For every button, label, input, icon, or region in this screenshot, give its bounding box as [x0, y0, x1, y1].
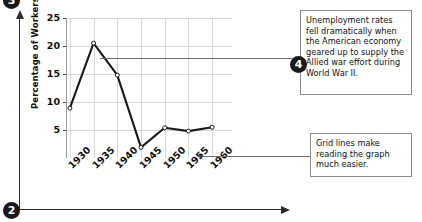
data-point-marker [139, 145, 143, 149]
line-chart [66, 18, 232, 158]
frame-horizontal-axis [19, 209, 281, 210]
frame-vertical-axis [19, 18, 20, 210]
leader-dot-callout-two [199, 155, 202, 158]
callout-gridlines: Grid lines make reading the graph much e… [310, 133, 412, 177]
callout-unemployment: Unemployment rates fell dramatically whe… [300, 10, 412, 95]
data-point-marker [210, 125, 214, 129]
leader-line-callout-two [200, 156, 310, 157]
y-tick-label: 5 [34, 124, 60, 135]
series-line [66, 18, 232, 158]
frame-horizontal-arrowhead-icon [281, 206, 290, 214]
data-point-marker [163, 126, 167, 130]
y-tick-label: 20 [34, 40, 60, 51]
step-badge-3: 3 [3, 0, 20, 9]
y-tick-label: 10 [34, 96, 60, 107]
data-point-marker [68, 106, 72, 110]
frame-vertical-arrowhead-icon [16, 10, 24, 19]
data-point-marker [115, 73, 119, 77]
data-point-marker [92, 41, 96, 45]
leader-line-callout-one [100, 58, 292, 59]
step-badge-2: 2 [3, 202, 20, 219]
data-point-marker [186, 129, 190, 133]
diagram-root: 3 2 4 Percentage of Workers Unemployed 2… [0, 0, 422, 222]
y-tick-label: 25 [34, 12, 60, 23]
step-badge-4: 4 [290, 56, 307, 73]
y-tick-label: 15 [34, 68, 60, 79]
